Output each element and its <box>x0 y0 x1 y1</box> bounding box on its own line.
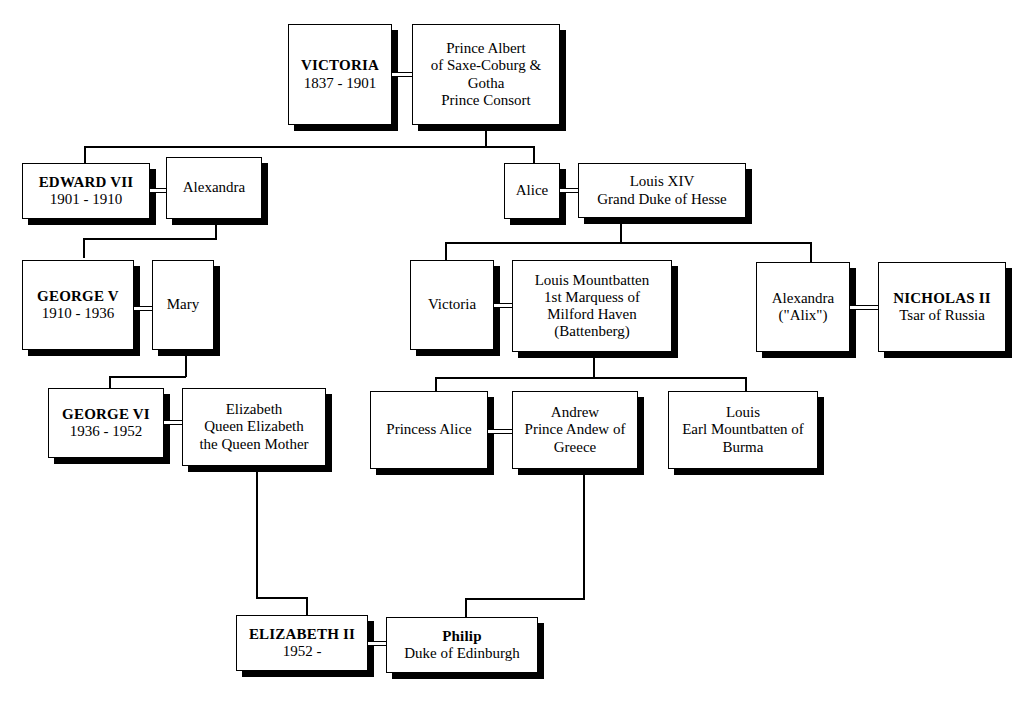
connector-line <box>745 377 747 391</box>
node-prince-albert-line1: Prince Albert <box>417 40 555 57</box>
node-george-vi-dates: 1936 - 1952 <box>53 423 159 440</box>
node-george-v-name: GEORGE V <box>27 288 129 305</box>
connector-line <box>465 598 585 600</box>
node-alexandra-denmark-name: Alexandra <box>171 179 257 196</box>
node-alix-line1: Alexandra <box>761 290 845 307</box>
marriage-link-alice-andrew <box>488 429 512 434</box>
node-george-v-dates: 1910 - 1936 <box>27 305 129 322</box>
node-louis-hesse-line2: Grand Duke of Hesse <box>583 191 741 208</box>
connector-line <box>109 376 186 378</box>
node-prince-albert-line2: of Saxe-Coburg & <box>417 57 555 74</box>
connector-line <box>465 598 467 617</box>
node-alix-line2: ("Alix") <box>761 307 845 324</box>
node-mountbatten-mh-line4: (Battenberg) <box>517 323 667 340</box>
node-nicholas-ii: NICHOLAS II Tsar of Russia <box>878 262 1006 352</box>
node-andrew-line2: Prince Andew of <box>517 421 633 438</box>
node-elizabeth-ii-dates: 1952 - <box>241 643 363 660</box>
node-victoria-hesse: Victoria <box>410 260 494 350</box>
node-victoria: VICTORIA 1837 - 1901 <box>288 24 392 125</box>
node-mountbatten-of-burma: Louis Earl Mountbatten of Burma <box>668 391 818 469</box>
marriage-link-george-mary <box>134 306 152 311</box>
connector-line <box>583 475 585 599</box>
node-princess-alice: Princess Alice <box>370 391 488 469</box>
node-princess-alice-name: Princess Alice <box>375 421 483 438</box>
node-mary: Mary <box>152 260 214 350</box>
marriage-link-elizabeth-philip <box>368 641 386 646</box>
node-prince-albert-line3: Gotha <box>417 75 555 92</box>
node-andrew-line3: Greece <box>517 439 633 456</box>
node-louis-hesse-line1: Louis XIV <box>583 173 741 190</box>
node-philip-line1: Philip <box>391 628 533 645</box>
node-victoria-name: VICTORIA <box>293 57 387 74</box>
node-mountbatten-mh-line2: 1st Marquess of <box>517 289 667 306</box>
connector-line <box>445 242 447 262</box>
node-mountbatten-mh-line1: Louis Mountbatten <box>517 272 667 289</box>
node-andrew-of-greece: Andrew Prince Andew of Greece <box>512 391 638 469</box>
connector-line <box>83 238 217 240</box>
connector-line <box>215 225 217 239</box>
marriage-link-george-vi-elizabeth <box>164 420 182 425</box>
node-queen-mother-line1: Elizabeth <box>187 401 321 418</box>
connector-line <box>533 146 535 164</box>
connector-line <box>256 472 258 598</box>
marriage-link-alice-louis <box>560 188 578 193</box>
node-george-v: GEORGE V 1910 - 1936 <box>22 260 134 350</box>
node-andrew-line1: Andrew <box>517 404 633 421</box>
connector-line <box>256 597 307 599</box>
connector-line <box>593 358 595 378</box>
node-burma-line2: Earl Mountbatten of <box>673 421 813 438</box>
node-burma-line3: Burma <box>673 439 813 456</box>
marriage-link-victoria-albert <box>392 72 412 77</box>
marriage-link-edward-alexandra <box>150 188 166 193</box>
family-tree-diagram: VICTORIA 1837 - 1901 Prince Albert of Sa… <box>0 0 1027 709</box>
node-nicholas-ii-line2: Tsar of Russia <box>883 307 1001 324</box>
node-elizabeth-ii: ELIZABETH II 1952 - <box>236 615 368 671</box>
node-alice: Alice <box>504 163 560 219</box>
connector-line <box>306 597 308 615</box>
node-victoria-dates: 1837 - 1901 <box>293 75 387 92</box>
node-edward-vii: EDWARD VII 1901 - 1910 <box>22 163 150 219</box>
node-queen-mother-line3: the Queen Mother <box>187 436 321 453</box>
node-queen-mother-line2: Queen Elizabeth <box>187 418 321 435</box>
connector-line <box>810 242 812 262</box>
marriage-link-victoria-mountbatten <box>494 303 512 308</box>
connector-line <box>445 242 811 244</box>
connector-line <box>620 224 622 243</box>
node-philip: Philip Duke of Edinburgh <box>386 617 538 673</box>
connector-line <box>185 356 187 377</box>
node-edward-vii-name: EDWARD VII <box>27 174 145 191</box>
node-alexandra-denmark: Alexandra <box>166 157 262 219</box>
node-louis-hesse: Louis XIV Grand Duke of Hesse <box>578 163 746 218</box>
connector-line <box>435 377 746 379</box>
node-nicholas-ii-line1: NICHOLAS II <box>883 290 1001 307</box>
node-queen-mother: Elizabeth Queen Elizabeth the Queen Moth… <box>182 388 326 466</box>
node-mountbatten-mh-line3: Milford Haven <box>517 306 667 323</box>
node-mary-name: Mary <box>157 296 209 313</box>
connector-line <box>435 377 437 391</box>
node-alice-name: Alice <box>509 182 555 199</box>
node-alexandra-alix: Alexandra ("Alix") <box>756 262 850 352</box>
node-victoria-hesse-name: Victoria <box>415 296 489 313</box>
node-louis-mountbatten-milford-haven: Louis Mountbatten 1st Marquess of Milfor… <box>512 260 672 352</box>
node-george-vi-name: GEORGE VI <box>53 406 159 423</box>
node-prince-albert-line4: Prince Consort <box>417 92 555 109</box>
node-burma-line1: Louis <box>673 404 813 421</box>
connector-line <box>84 146 534 148</box>
node-george-vi: GEORGE VI 1936 - 1952 <box>48 388 164 458</box>
connector-line <box>83 238 85 258</box>
connector-line <box>84 146 86 164</box>
node-edward-vii-dates: 1901 - 1910 <box>27 191 145 208</box>
node-philip-line2: Duke of Edinburgh <box>391 645 533 662</box>
marriage-link-alix-nicholas <box>850 305 878 310</box>
node-elizabeth-ii-name: ELIZABETH II <box>241 626 363 643</box>
connector-line <box>485 131 487 147</box>
node-prince-albert: Prince Albert of Saxe-Coburg & Gotha Pri… <box>412 24 560 125</box>
